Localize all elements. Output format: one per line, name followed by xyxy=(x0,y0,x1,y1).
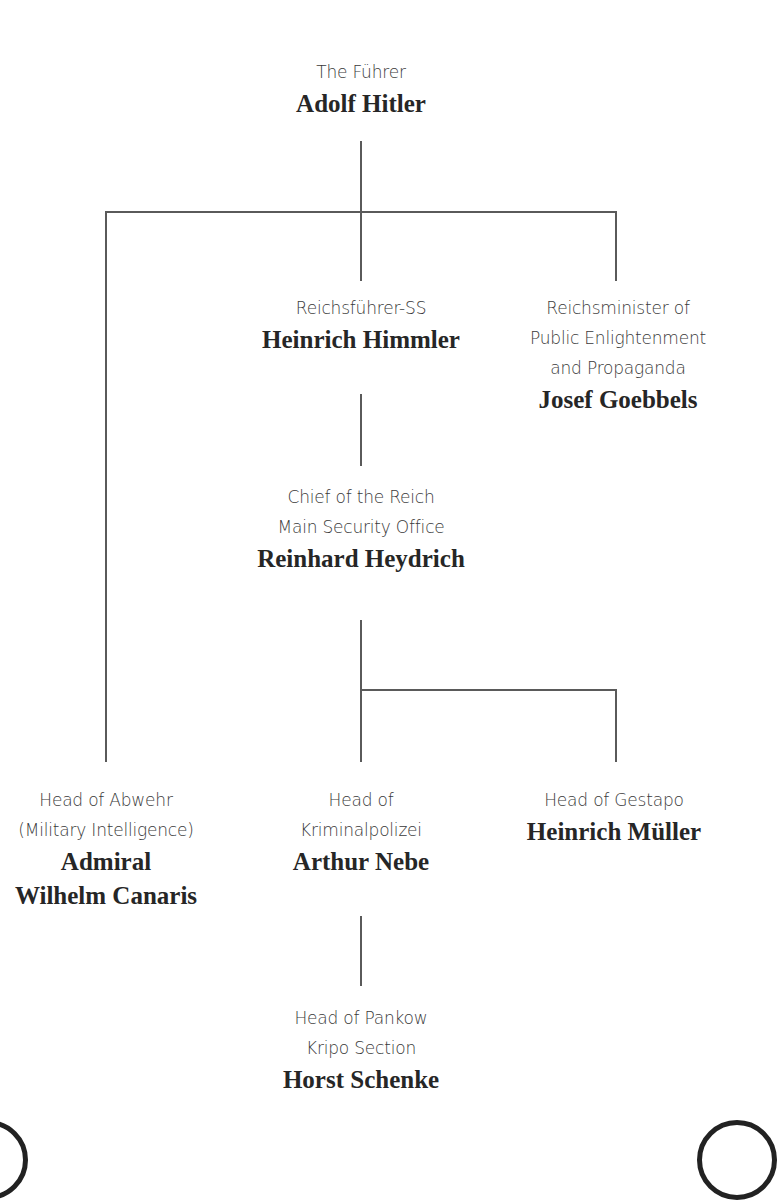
node-goebbels: Reichsminister of Public Enlightenment a… xyxy=(508,293,728,417)
node-hitler: The Führer Adolf Hitler xyxy=(211,57,511,121)
node-title: The Führer xyxy=(211,57,511,87)
node-name: Heinrich Müller xyxy=(500,815,728,849)
node-title: Kripo Section xyxy=(211,1033,511,1063)
node-name: Heinrich Himmler xyxy=(211,323,511,357)
connector-to-canaris xyxy=(105,211,107,762)
node-title: Chief of the Reich xyxy=(211,482,511,512)
connector-heydrich-horizontal xyxy=(360,689,617,691)
connector-to-goebbels xyxy=(615,211,617,281)
connector-nebe-schenke xyxy=(360,916,362,986)
node-title: Head of Abwehr xyxy=(0,785,212,815)
node-muller: Head of Gestapo Heinrich Müller xyxy=(500,785,728,849)
node-canaris: Head of Abwehr (Military Intelligence) A… xyxy=(0,785,212,913)
node-title: Kriminalpolizei xyxy=(241,815,481,845)
node-name: Horst Schenke xyxy=(211,1063,511,1097)
node-name: Josef Goebbels xyxy=(508,383,728,417)
node-title: Reichsführer-SS xyxy=(211,293,511,323)
node-name: Admiral xyxy=(0,845,212,879)
node-title: Public Enlightenment xyxy=(508,323,728,353)
node-title: Reichsminister of xyxy=(508,293,728,323)
connector-himmler-heydrich xyxy=(360,394,362,466)
node-heydrich: Chief of the Reich Main Security Office … xyxy=(211,482,511,576)
node-title: Head of Pankow xyxy=(211,1003,511,1033)
page-corner-left-decoration xyxy=(0,1120,28,1200)
node-title: Head of Gestapo xyxy=(500,785,728,815)
node-name: Reinhard Heydrich xyxy=(211,542,511,576)
page-corner-right-decoration xyxy=(697,1120,777,1200)
node-name: Arthur Nebe xyxy=(241,845,481,879)
node-schenke: Head of Pankow Kripo Section Horst Schen… xyxy=(211,1003,511,1097)
node-title: and Propaganda xyxy=(508,353,728,383)
node-title: (Military Intelligence) xyxy=(0,815,212,845)
node-himmler: Reichsführer-SS Heinrich Himmler xyxy=(211,293,511,357)
node-title: Main Security Office xyxy=(211,512,511,542)
node-nebe: Head of Kriminalpolizei Arthur Nebe xyxy=(241,785,481,879)
connector-top-horizontal xyxy=(105,211,617,213)
node-name: Wilhelm Canaris xyxy=(0,879,212,913)
node-title: Head of xyxy=(241,785,481,815)
node-name: Adolf Hitler xyxy=(211,87,511,121)
connector-heydrich-down xyxy=(360,620,362,762)
connector-to-muller xyxy=(615,689,617,762)
